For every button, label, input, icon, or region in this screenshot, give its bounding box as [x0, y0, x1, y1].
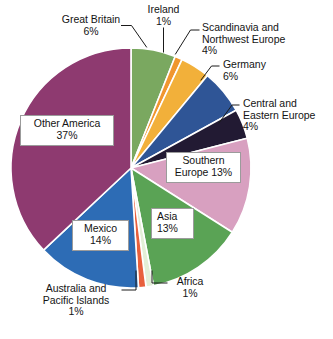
pie-chart: Great Britain 6% Ireland 1% Scandinavia …: [0, 0, 333, 339]
slice-label-great-britain: Great Britain 6%: [52, 14, 130, 37]
slice-label-ireland: Ireland 1%: [140, 4, 187, 27]
slice-label-southern-europe: Southern Europe 13%: [166, 152, 241, 183]
slice-label-germany: Germany 6%: [223, 59, 303, 82]
slice-label-other-america: Other America 37%: [20, 115, 114, 146]
slice-label-central-eastern-europe: Central and Eastern Europe 4%: [243, 98, 333, 133]
slice-label-mexico: Mexico 14%: [72, 220, 129, 251]
slice-label-africa: Africa 1%: [162, 276, 218, 299]
leader-line-scandinavia: [176, 30, 200, 54]
slice-label-asia: Asia 13%: [151, 208, 194, 239]
slice-label-scandinavia: Scandinavia and Northwest Europe 4%: [202, 22, 333, 57]
slice-label-australia-pacific-islands: Australia and Pacific Islands 1%: [33, 283, 119, 318]
